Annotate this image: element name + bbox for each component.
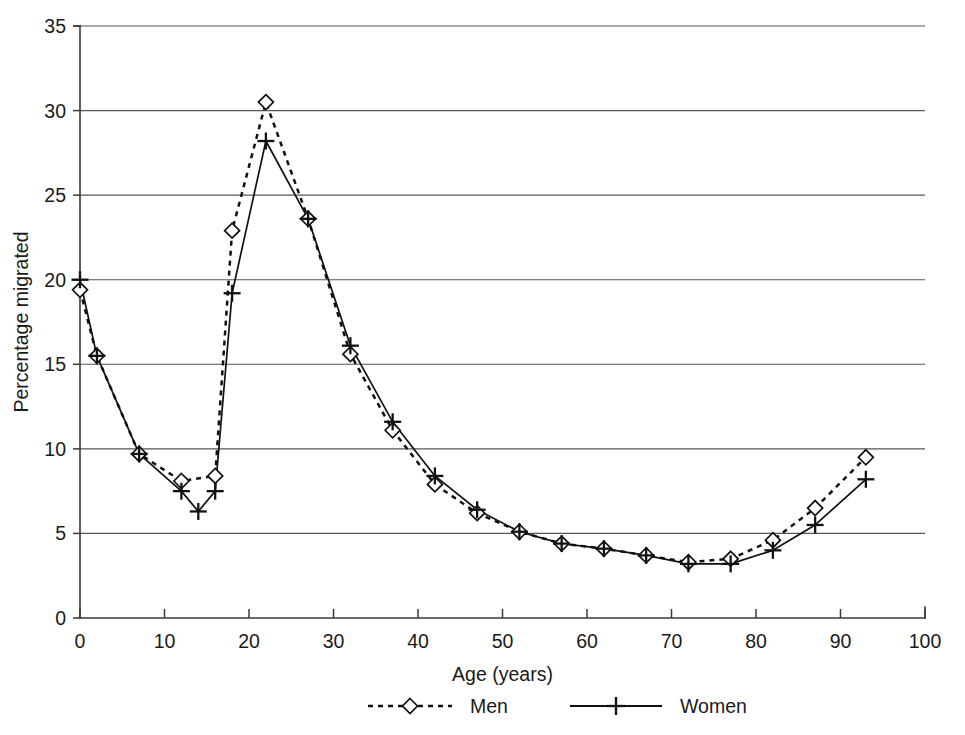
x-tick-label-50: 50	[492, 630, 514, 652]
x-tick-label-100: 100	[909, 630, 942, 652]
y-tick-label-25: 25	[44, 184, 66, 206]
marker-women-age-67	[638, 547, 655, 564]
legend-men-label: Men	[470, 695, 508, 717]
marker-women-age-52	[511, 523, 528, 540]
axes-group	[74, 26, 925, 618]
marker-women-age-82	[764, 542, 781, 559]
marker-men-age-18	[225, 223, 240, 238]
marker-women-age-62	[595, 540, 612, 557]
series-line-women	[80, 141, 866, 564]
x-tick-label-90: 90	[830, 630, 852, 652]
y-tick-label-0: 0	[55, 607, 66, 629]
marker-women-age-27	[300, 210, 317, 227]
y-tick-label-35: 35	[44, 15, 66, 37]
marker-men-age-22	[258, 95, 273, 110]
marker-men-age-16	[208, 468, 223, 483]
legend-women-plus-icon	[607, 697, 625, 715]
legend-men-diamond-icon	[403, 699, 418, 714]
marker-women-age-57	[553, 535, 570, 552]
y-axis-title: Percentage migrated	[10, 231, 32, 412]
x-tick-label-80: 80	[745, 630, 767, 652]
y-tick-label-15: 15	[44, 353, 66, 375]
x-tick-label-60: 60	[576, 630, 598, 652]
marker-women-age-2	[88, 347, 105, 364]
marker-women-age-0	[72, 271, 89, 288]
chart-figure: 051015202530350102030405060708090100 Men…	[0, 0, 965, 735]
series-line-men	[80, 102, 866, 562]
x-tick-label-40: 40	[407, 630, 429, 652]
marker-women-age-22	[257, 133, 274, 150]
x-tick-label-10: 10	[154, 630, 176, 652]
y-tick-label-10: 10	[44, 438, 66, 460]
migration-line-chart: 051015202530350102030405060708090100 Men…	[0, 0, 965, 735]
marker-women-age-72	[680, 555, 697, 572]
tickmarks-group	[73, 26, 925, 618]
y-tick-label-20: 20	[44, 269, 66, 291]
legend-women-label: Women	[680, 695, 747, 717]
x-tick-label-30: 30	[323, 630, 345, 652]
x-tick-label-70: 70	[661, 630, 683, 652]
y-tick-label-30: 30	[44, 100, 66, 122]
gridlines-group	[80, 26, 925, 533]
x-tick-label-20: 20	[238, 630, 260, 652]
x-tick-label-0: 0	[75, 630, 86, 652]
series-group	[72, 95, 875, 573]
y-tick-label-5: 5	[55, 522, 66, 544]
legend-group: MenWomen	[368, 695, 747, 717]
x-axis-title: Age (years)	[452, 663, 553, 685]
marker-women-age-18	[224, 285, 241, 302]
